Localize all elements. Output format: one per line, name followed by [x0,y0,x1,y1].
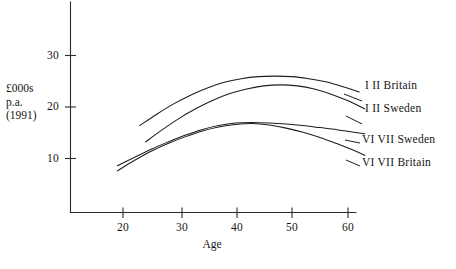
x-tick-label-20: 20 [108,222,138,234]
curve-i-ii-sweden [146,85,365,142]
x-tick-label-30: 30 [167,222,197,234]
curve-i-ii-britain [140,76,359,125]
x-tick-label-60: 60 [333,222,363,234]
y-axis-title-line-2: p.a. [6,96,37,110]
y-tick-label-10: 10 [33,153,59,165]
x-tick-label-40: 40 [222,222,252,234]
legend-item-vi-vii-britain: VI VII Britain [362,157,431,169]
y-tick-label-30: 30 [33,50,59,62]
y-axis-title-line-1: £000s [6,82,37,96]
legend-item-i-ii-sweden: I II Sweden [365,103,421,115]
legend-item-vi-vii-sweden: VI VII Sweden [362,134,435,146]
earnings-by-age-figure: 30 20 10 £000s p.a. (1991) 20 30 40 50 6… [0,0,456,269]
y-axis-title: £000s p.a. (1991) [6,82,37,123]
leader-vi-vii-sweden [345,140,360,143]
leader-i-ii-sweden [346,116,362,124]
y-axis-title-line-3: (1991) [6,109,37,123]
x-axis-title: Age [182,239,242,251]
leader-vi-vii-britain [346,160,360,166]
legend-item-i-ii-britain: I II Britain [365,80,417,92]
curve-vi-vii-sweden [117,122,365,165]
x-tick-label-50: 50 [277,222,307,234]
